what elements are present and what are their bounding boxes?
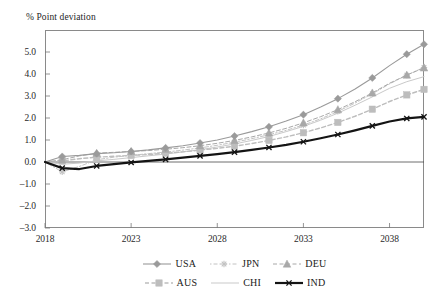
legend-swatch-jpn [209, 258, 239, 270]
legend-item-jpn[interactable]: JPN [209, 258, 259, 270]
legend-item-usa[interactable]: USA [142, 258, 196, 270]
x-tick-label: 2033 [280, 234, 326, 244]
legend-row: USAJPNDEU [45, 254, 424, 273]
y-tick-label: 1.0 [2, 135, 36, 145]
legend-swatch-chi [210, 277, 240, 289]
y-tick-label: 5.0 [2, 47, 36, 57]
legend-swatch-deu [272, 258, 302, 270]
x-tick-label: 2023 [108, 234, 154, 244]
legend-item-chi[interactable]: CHI [210, 277, 261, 289]
plot-area [45, 30, 424, 228]
x-tick-label: 2028 [194, 234, 240, 244]
legend-swatch-usa [142, 258, 172, 270]
legend-label: CHI [243, 277, 261, 288]
data-point-marker [221, 260, 227, 266]
x-tick-label: 2018 [22, 234, 68, 244]
chart-container: % Point deviation 5.04.03.02.01.00.0–1.0… [0, 0, 438, 307]
legend-label: JPN [242, 258, 259, 269]
legend-item-aus[interactable]: AUS [144, 277, 198, 289]
legend-swatch-aus [144, 277, 174, 289]
y-tick-label: 2.0 [2, 113, 36, 123]
legend-label: IND [307, 277, 325, 288]
y-axis-title: % Point deviation [26, 12, 96, 22]
data-point-marker [154, 260, 161, 267]
chart-legend: USAJPNDEUAUSCHIIND [45, 254, 424, 292]
legend-label: AUS [177, 277, 198, 288]
y-tick-label: 3.0 [2, 91, 36, 101]
y-tick-label: –2.0 [2, 201, 36, 211]
legend-swatch-ind [274, 277, 304, 289]
data-point-marker [155, 279, 161, 285]
x-tick-label: 2038 [367, 234, 413, 244]
legend-row: AUSCHIIND [45, 273, 424, 292]
y-tick-label: –1.0 [2, 179, 36, 189]
legend-item-ind[interactable]: IND [274, 277, 325, 289]
legend-item-deu[interactable]: DEU [272, 258, 326, 270]
legend-label: USA [175, 258, 196, 269]
y-tick-label: 4.0 [2, 69, 36, 79]
y-tick-label: –3.0 [2, 223, 36, 233]
y-tick-label: 0.0 [2, 157, 36, 167]
legend-label: DEU [305, 258, 326, 269]
